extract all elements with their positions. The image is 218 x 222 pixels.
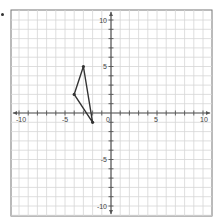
x-tick-label: -10	[16, 116, 26, 123]
x-tick-label: -5	[62, 116, 68, 123]
coordinate-plane: -10-50510105-5-10	[0, 0, 218, 222]
x-tick-label: 10	[200, 116, 208, 123]
vertex-dot	[73, 93, 76, 96]
x-tick-label: 5	[154, 116, 158, 123]
x-tick-label: 0	[106, 116, 110, 123]
y-tick-label: -10	[97, 203, 107, 210]
vertex-dot	[82, 65, 85, 68]
y-tick-label: 10	[99, 17, 107, 24]
y-tick-label: 5	[103, 63, 107, 70]
vertex-dot	[91, 121, 94, 124]
y-tick-label: -5	[101, 156, 107, 163]
